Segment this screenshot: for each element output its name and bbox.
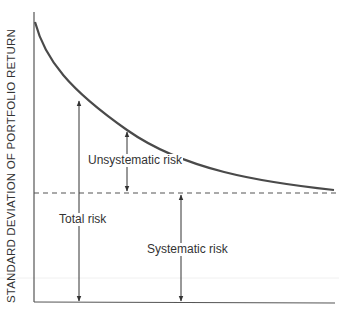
x-axis: [34, 302, 335, 303]
total-risk-label: Total risk: [58, 213, 107, 226]
systematic-risk-label: Systematic risk: [146, 243, 229, 256]
unsystematic-risk-label: Unsystematic risk: [87, 154, 183, 167]
total-risk-curve: [35, 22, 334, 190]
y-axis-label: STANDARD DEVIATION OF PORTFOLIO RETURN: [5, 26, 17, 306]
